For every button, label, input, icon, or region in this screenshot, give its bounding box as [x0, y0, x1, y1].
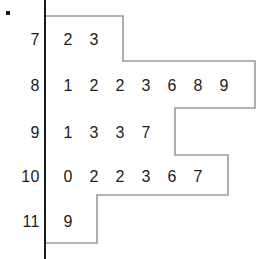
leaf-9-1: 3	[85, 125, 103, 141]
stem-label-11: 11	[0, 214, 40, 230]
leaf-8-4: 6	[163, 78, 181, 94]
leaf-10-3: 3	[137, 169, 155, 185]
leaf-8-1: 2	[85, 78, 103, 94]
leaf-10-5: 7	[189, 169, 207, 185]
stem-label-8: 8	[0, 78, 40, 94]
leaf-9-2: 3	[111, 125, 129, 141]
leaf-9-0: 1	[59, 125, 77, 141]
leaf-8-0: 1	[59, 78, 77, 94]
leaf-9-3: 7	[137, 125, 155, 141]
leaf-10-0: 0	[59, 169, 77, 185]
leaf-10-2: 2	[111, 169, 129, 185]
leaf-11-0: 9	[59, 214, 77, 230]
stem-label-7: 7	[0, 32, 40, 48]
leaf-8-6: 9	[215, 78, 233, 94]
leaf-10-1: 2	[85, 169, 103, 185]
leaf-8-5: 8	[189, 78, 207, 94]
leaf-8-3: 3	[137, 78, 155, 94]
leaf-10-4: 6	[163, 169, 181, 185]
stem-label-9: 9	[0, 125, 40, 141]
leaf-8-2: 2	[111, 78, 129, 94]
leaf-7-0: 2	[59, 32, 77, 48]
stem-label-10: 10	[0, 169, 40, 185]
stem-and-leaf-plot: 7891011 23122368913370223679	[0, 0, 258, 259]
leaf-7-1: 3	[85, 32, 103, 48]
